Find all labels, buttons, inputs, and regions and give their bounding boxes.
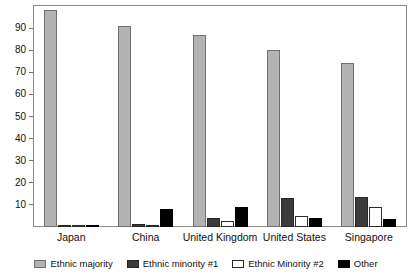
y-axis-tick-label: 70 — [15, 67, 29, 77]
x-axis-labels: JapanChinaUnited KingdomUnited StatesSin… — [0, 230, 412, 248]
legend-swatch-icon — [34, 260, 46, 268]
bar — [207, 218, 220, 227]
y-axis-tick-mark — [29, 138, 33, 139]
bar — [160, 209, 173, 227]
legend-swatch-icon — [232, 260, 244, 268]
bar — [235, 207, 248, 227]
y-axis-tick-label: 60 — [15, 89, 29, 99]
bar — [383, 219, 396, 227]
bar — [309, 218, 322, 227]
bar-group — [267, 6, 322, 227]
x-axis-label: Japan — [57, 230, 86, 244]
y-axis-tick-mark — [29, 116, 33, 117]
y-axis-tick-mark — [29, 204, 33, 205]
y-axis-tick-label: 50 — [15, 112, 29, 122]
bar — [132, 224, 145, 227]
y-axis-tick: 70 — [15, 66, 33, 78]
y-axis-tick-label: 80 — [15, 45, 29, 55]
y-axis-tick-mark — [29, 160, 33, 161]
legend-item[interactable]: Ethnic majority — [34, 259, 112, 269]
legend-item[interactable]: Other — [338, 259, 378, 269]
y-axis-tick-mark — [29, 72, 33, 73]
bar — [86, 225, 99, 227]
y-axis-tick-label: 90 — [15, 23, 29, 33]
bar — [221, 221, 234, 227]
y-axis-tick: 10 — [15, 199, 33, 211]
x-axis-label: China — [132, 230, 159, 244]
y-axis-tick-mark — [29, 50, 33, 51]
bar — [267, 50, 280, 227]
legend-swatch-icon — [338, 260, 350, 268]
bar-group — [193, 6, 248, 227]
bar — [58, 225, 71, 227]
bar — [44, 10, 57, 227]
y-axis-tick: 40 — [15, 133, 33, 145]
y-axis-tick-label: 40 — [15, 134, 29, 144]
legend-item[interactable]: Ethnic Minority #2 — [232, 259, 324, 269]
y-axis-tick-mark — [29, 28, 33, 29]
x-axis-label: United States — [263, 230, 326, 244]
legend-swatch-icon — [127, 260, 139, 268]
y-axis-tick: 90 — [15, 22, 33, 34]
bar — [369, 207, 382, 227]
bar-group — [118, 6, 173, 227]
y-axis-tick: 30 — [15, 155, 33, 167]
chart-legend: Ethnic majorityEthnic minority #1Ethnic … — [0, 256, 412, 272]
bar — [281, 198, 294, 227]
legend-label: Ethnic Minority #2 — [248, 259, 324, 269]
legend-label: Ethnic majority — [50, 259, 112, 269]
x-axis-label: United Kingdom — [183, 230, 258, 244]
bar — [146, 225, 159, 227]
y-axis-tick: 80 — [15, 44, 33, 56]
bar — [341, 63, 354, 227]
legend-item[interactable]: Ethnic minority #1 — [127, 259, 219, 269]
legend-label: Ethnic minority #1 — [143, 259, 219, 269]
y-axis-tick-label: 30 — [15, 156, 29, 166]
y-axis-tick: 50 — [15, 111, 33, 123]
y-axis-tick-label: 10 — [15, 200, 29, 210]
y-axis-tick-mark — [29, 94, 33, 95]
bars-layer — [34, 6, 406, 227]
bar-chart: 908070605040302010 JapanChinaUnited King… — [0, 0, 412, 276]
y-axis-tick: 20 — [15, 177, 33, 189]
bar — [72, 225, 85, 227]
bar — [295, 216, 308, 227]
bar — [118, 26, 131, 227]
bar — [193, 35, 206, 227]
y-axis-tick-mark — [29, 182, 33, 183]
y-axis-tick: 60 — [15, 88, 33, 100]
bar-group — [341, 6, 396, 227]
x-axis-label: Singapore — [345, 230, 393, 244]
bar — [355, 197, 368, 227]
bar-group — [44, 6, 99, 227]
legend-label: Other — [354, 259, 378, 269]
y-axis: 908070605040302010 — [0, 0, 33, 232]
y-axis-tick-label: 20 — [15, 178, 29, 188]
